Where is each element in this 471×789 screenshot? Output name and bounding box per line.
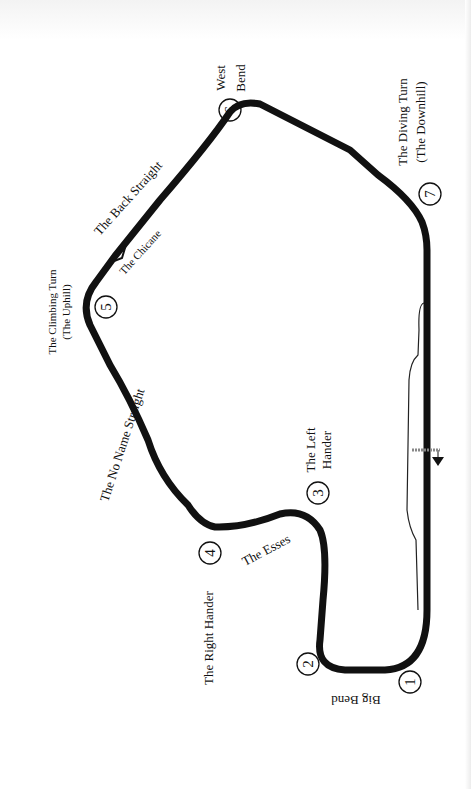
label-back-straight: The Back Straight [91,158,166,239]
label-right-hander: The Right Hander [201,590,216,685]
svg-text:2: 2 [300,660,316,668]
turn-5-marker: 5 [95,296,117,318]
label-diving-turn-2: (The Downhill) [413,81,428,162]
turn-7-marker: 7 [419,183,441,205]
label-big-bend: Big Bend [331,693,381,708]
svg-text:4: 4 [202,549,218,557]
svg-text:1: 1 [402,678,418,686]
svg-text:3: 3 [310,489,326,497]
label-west-bend-2: Bend [233,64,248,92]
track-map: 1 2 3 4 5 6 7 Big Bend The Left Hander T… [0,0,471,789]
turn-2-marker: 2 [297,653,319,675]
label-no-name-straight: The No Name Straight [97,386,148,503]
svg-text:5: 5 [98,303,114,311]
pit-lane [407,303,424,610]
label-left-hander-1: The Left [303,427,318,473]
arrow-down-icon [432,457,444,466]
svg-text:7: 7 [422,190,438,198]
label-esses: The Esses [239,531,292,569]
label-west-bend-1: West [213,65,228,91]
label-left-hander-2: Hander [319,430,334,469]
svg-text:6: 6 [222,106,238,114]
label-diving-turn-1: The Diving Turn [395,78,410,166]
turn-4-marker: 4 [199,542,221,564]
turn-1-marker: 1 [399,671,421,693]
label-climbing-turn-2: (The Uphill) [60,284,73,340]
turn-3-marker: 3 [307,482,329,504]
label-climbing-turn-1: The Climbing Turn [46,269,58,354]
